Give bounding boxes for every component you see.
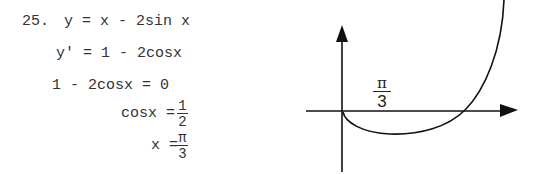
x-axis bbox=[306, 104, 518, 117]
graph-sketch bbox=[0, 0, 547, 174]
graph-label-pi-over-three: π 3 bbox=[373, 76, 391, 111]
y-axis bbox=[336, 25, 348, 172]
function-curve bbox=[343, 0, 504, 134]
